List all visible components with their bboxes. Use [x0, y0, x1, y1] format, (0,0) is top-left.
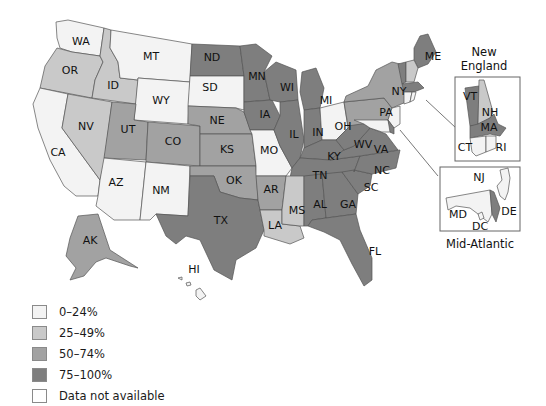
label-NV: NV [78, 120, 94, 133]
label-IA: IA [260, 108, 271, 121]
label-OK: OK [226, 174, 243, 187]
legend-label: 25–49% [59, 326, 105, 340]
label-NM: NM [152, 184, 170, 197]
label-DC: DC [472, 220, 488, 233]
label-RI: RI [496, 141, 507, 154]
label-OH: OH [335, 120, 352, 133]
legend-label: 75–100% [59, 368, 112, 382]
legend-label: 50–74% [59, 347, 105, 361]
label-PA: PA [379, 106, 393, 119]
label-SC: SC [364, 181, 379, 194]
legend: 0–24% 25–49% 50–74% 75–100% Data not ava… [32, 301, 165, 406]
label-MA: MA [480, 121, 497, 134]
label-KS: KS [220, 143, 234, 156]
label-WI: WI [280, 81, 294, 94]
label-MS: MS [289, 204, 305, 217]
label-FL: FL [369, 245, 382, 258]
legend-label: Data not available [59, 389, 165, 403]
label-UT: UT [121, 123, 136, 136]
label-AR: AR [263, 183, 279, 196]
label-MT: MT [143, 50, 159, 63]
label-LA: LA [268, 219, 282, 232]
label-ID: ID [107, 79, 119, 92]
label-CT: CT [458, 141, 473, 154]
inset-new-england-title-1: New [471, 45, 496, 59]
label-AK: AK [83, 234, 99, 247]
label-VT: VT [463, 90, 478, 103]
label-WV: WV [354, 138, 373, 151]
label-IN: IN [312, 126, 323, 139]
label-TN: TN [312, 169, 328, 182]
label-MI: MI [320, 94, 333, 107]
label-AZ: AZ [108, 176, 124, 189]
state-MS[interactable] [282, 176, 304, 226]
label-WY: WY [152, 94, 170, 107]
state-AK[interactable] [66, 214, 138, 280]
label-ND: ND [204, 51, 221, 64]
label-WA: WA [72, 35, 90, 48]
label-VA: VA [374, 143, 389, 156]
label-TX: TX [213, 214, 229, 227]
legend-swatch [32, 368, 47, 382]
label-NY: NY [392, 85, 407, 98]
legend-swatch [32, 347, 47, 361]
legend-item-25-49: 25–49% [32, 322, 165, 343]
label-SD: SD [202, 81, 217, 94]
label-MO: MO [260, 144, 278, 157]
label-OR: OR [62, 64, 79, 77]
legend-swatch [32, 326, 47, 340]
label-NC: NC [374, 164, 390, 177]
legend-swatch [32, 389, 47, 403]
state-FL[interactable] [308, 214, 372, 286]
legend-item-na: Data not available [32, 385, 165, 406]
label-CO: CO [165, 135, 182, 148]
label-NH: NH [482, 106, 499, 119]
inset-new-england-title-2: England [461, 59, 508, 73]
label-MN: MN [248, 70, 266, 83]
label-AL: AL [313, 198, 328, 211]
label-IL: IL [289, 128, 299, 141]
label-GA: GA [340, 198, 357, 211]
legend-swatch [32, 305, 47, 319]
label-HI: HI [188, 263, 200, 276]
label-DE: DE [501, 205, 516, 218]
label-NE: NE [209, 114, 224, 127]
legend-item-50-74: 50–74% [32, 343, 165, 364]
inset-mid-atlantic-title: Mid-Atlantic [446, 237, 514, 251]
label-CA: CA [50, 146, 66, 159]
legend-item-75-100: 75–100% [32, 364, 165, 385]
label-ME: ME [425, 50, 441, 63]
state-AZ[interactable] [96, 158, 146, 220]
state-HI[interactable] [178, 277, 206, 300]
legend-label: 0–24% [59, 305, 98, 319]
legend-item-0-24: 0–24% [32, 301, 165, 322]
label-MD: MD [449, 208, 467, 221]
label-KY: KY [327, 150, 341, 163]
label-NJ: NJ [473, 171, 484, 184]
